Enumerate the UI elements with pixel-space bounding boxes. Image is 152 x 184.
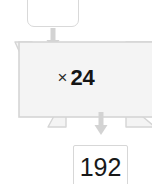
input-value-box[interactable] (27, 0, 79, 27)
output-value-box[interactable]: 192 (73, 145, 128, 184)
operation-banner[interactable] (14, 36, 152, 128)
arrow-down-icon-bottom (94, 112, 108, 136)
output-value-text: 192 (80, 155, 122, 180)
diagram-canvas: × 24 192 (0, 0, 152, 184)
